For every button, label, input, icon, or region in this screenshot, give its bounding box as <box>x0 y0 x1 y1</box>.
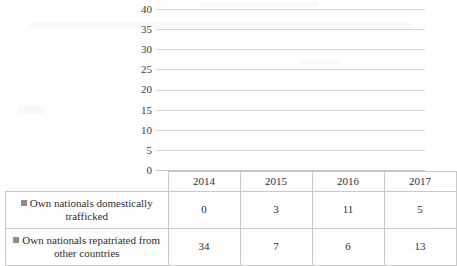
cell-domestically-trafficked-2017: 5 <box>384 191 456 228</box>
table-row: Own nationals repatriated from other cou… <box>6 228 457 265</box>
legend-label-domestically-trafficked: Own nationals domestically trafficked <box>30 197 153 222</box>
legend-swatch-icon <box>13 237 19 243</box>
bar-group-2016 <box>290 9 357 171</box>
legend-swatch-icon <box>21 200 27 206</box>
y-tick-5: 5 <box>130 145 152 156</box>
table-corner-cell <box>6 172 169 192</box>
table-row: Own nationals domestically trafficked 0 … <box>6 191 457 228</box>
cell-domestically-trafficked-2016: 11 <box>312 191 384 228</box>
y-tick-15: 15 <box>130 105 152 116</box>
plot-area <box>156 9 425 171</box>
cell-repatriated-2014: 34 <box>168 228 240 265</box>
cell-domestically-trafficked-2014: 0 <box>168 191 240 228</box>
table-header-row: 2014 2015 2016 2017 <box>6 172 457 192</box>
y-tick-40: 40 <box>130 4 152 15</box>
legend-item-repatriated: Own nationals repatriated from other cou… <box>6 228 169 265</box>
y-tick-25: 25 <box>130 64 152 75</box>
cell-repatriated-2015: 7 <box>240 228 312 265</box>
table-header-2015: 2015 <box>240 172 312 192</box>
table-header-2014: 2014 <box>168 172 240 192</box>
chart-data-table: 2014 2015 2016 2017 Own nationals domest… <box>5 171 457 266</box>
y-tick-10: 10 <box>130 125 152 136</box>
table-header-2017: 2017 <box>384 172 456 192</box>
cell-repatriated-2017: 13 <box>384 228 456 265</box>
legend-label-repatriated: Own nationals repatriated from other cou… <box>22 234 160 259</box>
bar-group-2014 <box>156 9 223 171</box>
y-tick-35: 35 <box>130 24 152 35</box>
y-tick-30: 30 <box>130 44 152 55</box>
bar-group-2017 <box>357 9 424 171</box>
table-header-2016: 2016 <box>312 172 384 192</box>
y-axis-tick-labels: 40 35 30 25 20 15 10 5 0 <box>128 9 152 171</box>
legend-item-domestically-trafficked: Own nationals domestically trafficked <box>6 191 169 228</box>
y-tick-20: 20 <box>130 84 152 95</box>
cell-repatriated-2016: 6 <box>312 228 384 265</box>
scan-artifact <box>18 106 44 114</box>
scan-artifact <box>200 2 318 7</box>
bar-group-2015 <box>223 9 290 171</box>
cell-domestically-trafficked-2015: 3 <box>240 191 312 228</box>
